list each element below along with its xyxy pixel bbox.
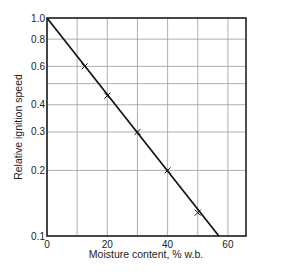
x-tick-label: 60 [222, 239, 234, 250]
fit-line-segment [47, 18, 219, 236]
gridlines [47, 18, 246, 236]
y-tick-label: 0.6 [31, 61, 45, 72]
y-tick-label: 0.4 [31, 99, 45, 110]
x-axis-label: Moisture content, % w.b. [89, 248, 203, 260]
chart: 1.00.80.60.40.30.20.1 0204060 Moisture c… [0, 0, 300, 274]
y-axis-label: Relative ignition speed [12, 74, 24, 180]
x-tick-label: 0 [44, 239, 50, 250]
y-tick-label: 0.2 [31, 165, 45, 176]
y-tick-label: 0.8 [31, 34, 45, 45]
y-tick-label: 0.3 [31, 126, 45, 137]
y-axis-ticks: 1.00.80.60.40.30.20.1 [31, 13, 45, 242]
fit-line [47, 18, 219, 236]
y-tick-label: 1.0 [31, 13, 45, 24]
data-markers [82, 63, 201, 215]
